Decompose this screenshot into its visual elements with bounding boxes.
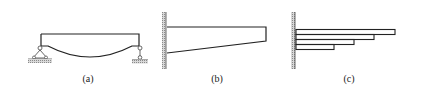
pin-support-icon: [28, 46, 52, 63]
panel-b-label: (b): [211, 74, 223, 84]
panel-a-beam-diagram: [28, 34, 148, 64]
fixed-wall-c: [291, 12, 295, 69]
panel-c-label: (c): [343, 74, 354, 84]
plate-3: [296, 40, 354, 45]
plate-1: [296, 30, 395, 35]
fixed-wall-b: [162, 12, 166, 69]
beam-a-curved-bottom: [41, 46, 139, 57]
plate-4: [296, 45, 334, 50]
tapered-beam-b: [167, 27, 266, 53]
panel-c-stepped-cantilever-diagram: [291, 12, 395, 69]
beam-a-outline: [41, 34, 139, 46]
plate-2: [296, 35, 374, 40]
panel-b-cantilever-diagram: [162, 12, 266, 69]
panel-a-label: (a): [82, 74, 93, 84]
roller-support-icon: [132, 46, 148, 64]
